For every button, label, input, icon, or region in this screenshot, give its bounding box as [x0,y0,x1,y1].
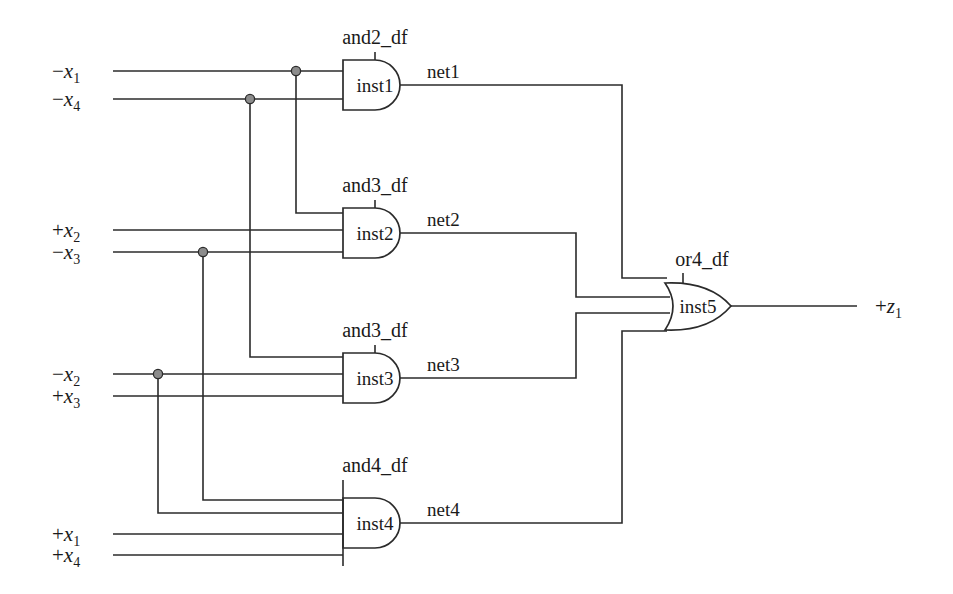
gate-instance-label-inst4: inst4 [357,513,394,534]
wire-net1 [400,85,667,278]
junction-dot-nx2 [153,369,162,378]
gate-type-label-inst4: and4_df [342,454,408,476]
branch-nx3-to-inst4 [203,252,343,500]
gate-type-label-inst1: and2_df [342,26,408,48]
gate-instance-label-inst5: inst5 [680,296,717,317]
input-port-labels: −x1 −x4 +x2 −x3 −x2 +x3 +x1 +x4 [52,59,80,570]
branch-wires [158,71,343,513]
wire-net2 [400,233,670,297]
net-label-net4: net4 [427,499,460,520]
junction-dots [153,66,300,378]
net-label-net1: net1 [427,61,460,82]
gate-inst3[interactable]: and3_df inst3 [342,319,408,403]
junction-dot-nx1 [291,66,300,75]
gate-inst5[interactable]: or4_df inst5 [665,248,731,330]
gate-instance-label-inst1: inst1 [357,75,394,96]
net-label-net2: net2 [427,209,460,230]
gate-inst2[interactable]: and3_df inst2 [342,174,408,258]
circuit-schematic: and2_df inst1 and3_df inst2 and3_df inst… [0,0,953,594]
gate-type-label-inst2: and3_df [342,174,408,196]
net-label-net3: net3 [427,354,460,375]
junction-dot-nx4 [245,94,254,103]
port-label-nx1: −x1 [52,59,80,86]
gate-type-label-inst3: and3_df [342,319,408,341]
gate-inst1[interactable]: and2_df inst1 [342,26,408,110]
branch-nx1-to-inst2 [296,71,343,213]
net-wires [400,85,857,523]
junction-dot-nx3 [198,247,207,256]
net-labels: net1 net2 net3 net4 [427,61,460,520]
port-label-pz1: +z1 [875,294,902,321]
gate-instance-label-inst3: inst3 [357,368,394,389]
gate-instance-label-inst2: inst2 [357,223,394,244]
branch-nx2-to-inst4 [158,374,343,513]
port-label-nx4: −x4 [52,87,80,114]
gate-inst4[interactable]: and4_df inst4 [342,454,408,566]
gate-type-label-inst5: or4_df [675,248,729,270]
input-wires [113,71,343,555]
output-port-label: +z1 [875,294,902,321]
